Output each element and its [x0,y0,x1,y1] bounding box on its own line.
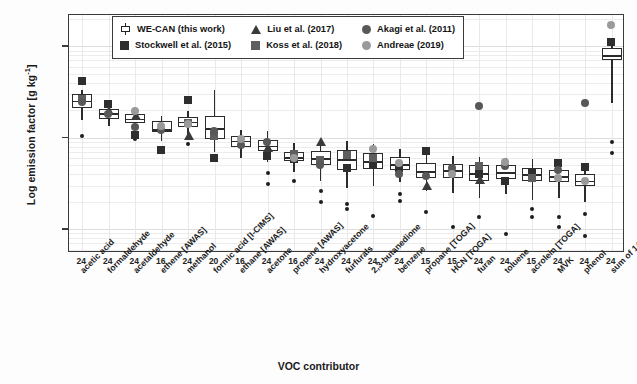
horizontal-gridline [69,60,623,61]
outlier-point [477,215,481,219]
legend-label: Stockwell et al. (2015) [135,40,231,50]
horizontal-gridline [69,138,623,139]
legend-label: Andreae (2019) [377,40,444,50]
study-marker [581,99,589,107]
legend-item[interactable]: Andreae (2019) [362,40,455,50]
boxplot-glyph-icon [120,23,131,35]
study-marker [528,174,536,182]
legend-label: WE-CAN (this work) [137,24,225,34]
outlier-point [345,202,349,206]
legend-item[interactable]: Stockwell et al. (2015) [120,40,231,50]
legend-item[interactable]: Liu et al. (2017) [251,24,342,34]
circle-light-icon [362,41,371,50]
y-axis-title-exponent: -1 [23,68,32,75]
outlier-point [398,192,402,196]
outlier-point [266,182,270,186]
legend-label: Koss et al. (2018) [266,40,342,50]
horizontal-gridline [69,233,623,234]
outlier-point [319,200,323,204]
study-marker [290,154,298,162]
study-marker [475,175,485,184]
y-axis-tick-mark [62,137,68,138]
outlier-point [610,140,614,144]
y-axis-tick-mark [62,45,68,46]
square-mid-icon [251,41,260,50]
study-marker [581,163,589,171]
outlier-point [504,232,508,236]
study-marker [475,102,483,110]
study-marker [184,131,194,140]
study-marker [184,96,192,104]
outlier-point [583,234,587,238]
y-axis-title-tail: ] [25,64,37,68]
outlier-point [292,179,296,183]
y-axis-tick-mark [62,228,68,229]
horizontal-gridline [69,94,623,95]
study-marker [395,170,403,178]
y-axis-title: Log emission factor [g kg-1] [23,35,37,235]
study-marker [422,181,432,190]
outlier-point [398,199,402,203]
horizontal-gridline [69,74,623,75]
study-marker [157,146,165,154]
legend-item[interactable]: Akagi et al. (2011) [362,24,455,34]
study-marker [607,21,615,29]
outlier-point [319,189,323,193]
study-marker [210,127,218,135]
legend-label: Liu et al. (2017) [267,24,334,34]
vertical-gridline [109,15,110,251]
x-axis-title: VOC contributor [0,360,637,372]
outlier-point [583,212,587,216]
study-marker [501,177,509,185]
outlier-point [557,215,561,219]
study-marker [316,161,324,169]
study-marker [131,123,139,131]
study-marker [78,77,86,85]
study-marker [395,159,403,167]
study-marker [369,154,377,162]
horizontal-gridline [69,229,623,230]
legend-item[interactable]: WE-CAN (this work) [120,23,231,35]
triangle-icon [251,25,261,34]
outlier-point [371,214,375,218]
study-marker [131,131,139,139]
study-marker [237,135,245,143]
study-marker [263,152,271,160]
horizontal-gridline [69,110,623,111]
study-marker [422,172,430,180]
outlier-point [610,151,614,155]
legend-item[interactable]: Koss et al. (2018) [251,40,342,50]
study-marker [369,161,377,169]
outlier-point [186,142,190,146]
study-marker [210,154,218,162]
study-marker [78,98,86,106]
study-marker [343,164,351,172]
outlier-point [530,215,534,219]
study-marker [184,120,192,128]
vertical-gridline [82,15,83,251]
outlier-point [345,207,349,211]
outlier-point [266,171,270,175]
study-marker [422,147,430,155]
figure-container: Log emission factor [g kg-1] VOC contrib… [0,0,637,384]
vertical-gridline [506,15,507,251]
horizontal-gridline [69,67,623,68]
box-median-line [602,55,622,57]
study-marker [607,38,615,46]
square-dark-icon [120,41,129,50]
box-median-line [496,172,516,174]
study-marker [475,162,483,170]
outlier-point [424,210,428,214]
circle-dark-icon [362,25,371,34]
legend-label: Akagi et al. (2011) [377,24,455,34]
y-axis-title-main: Log emission factor [g kg [25,75,37,205]
outlier-point [530,207,534,211]
box-median-line [337,159,357,161]
study-marker [343,151,351,159]
horizontal-gridline [69,83,623,84]
study-marker [316,137,326,146]
legend: WE-CAN (this work)Liu et al. (2017)Akagi… [112,16,464,59]
